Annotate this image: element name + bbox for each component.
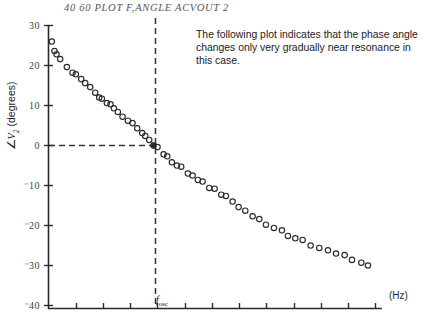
data-point	[212, 186, 217, 191]
data-point	[115, 109, 120, 114]
data-point	[308, 243, 313, 248]
data-point	[279, 228, 284, 233]
data-point	[147, 137, 152, 142]
resonance-point	[151, 143, 157, 149]
data-point	[317, 245, 322, 250]
data-point	[92, 90, 97, 95]
data-point	[236, 204, 241, 209]
data-point	[130, 120, 135, 125]
screenshot-page: 40 60 PLOT F,ANGLE ACVOUT 2 The followin…	[0, 0, 423, 327]
data-point	[57, 56, 62, 61]
data-point	[64, 64, 69, 69]
data-point	[169, 160, 174, 165]
data-point	[349, 257, 354, 262]
data-point	[342, 252, 347, 257]
data-point	[49, 39, 54, 44]
scatter-plot-canvas	[0, 0, 423, 327]
data-point	[271, 225, 276, 230]
data-point	[120, 114, 125, 119]
data-point	[300, 237, 305, 242]
data-point	[135, 126, 140, 131]
data-point	[257, 216, 262, 221]
data-point	[263, 222, 268, 227]
data-point	[207, 185, 212, 190]
data-point	[333, 251, 338, 256]
data-point	[365, 263, 370, 268]
data-point	[82, 80, 87, 85]
data-point	[190, 173, 195, 178]
resonance-point-marker	[151, 143, 157, 149]
data-point	[359, 260, 364, 265]
data-point	[230, 199, 235, 204]
data-point	[87, 84, 92, 89]
data-point	[250, 214, 255, 219]
data-point-group	[49, 39, 371, 268]
data-point	[325, 248, 330, 253]
data-point	[293, 236, 298, 241]
data-point	[243, 208, 248, 213]
data-point	[285, 233, 290, 238]
